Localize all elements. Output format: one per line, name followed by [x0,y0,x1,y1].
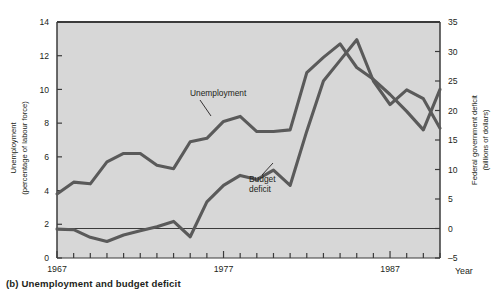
right-tick-label: 10 [448,165,458,175]
right-tick-label: 35 [448,17,458,27]
right-tick-label: 25 [448,76,458,86]
left-tick-label: 8 [44,118,49,128]
right-tick-label: 5 [448,194,453,204]
figure-caption: (b) Unemployment and budget deficit [6,278,181,289]
right-axis-title-line1: Federal government deficit [470,94,479,185]
figure-unemployment-budget-deficit: 02468101214 –505101520253035 19671977198… [0,0,503,301]
left-tick-label: 10 [39,85,49,95]
annotation-budget-deficit-line2: deficit [249,184,272,194]
left-tick-label: 14 [39,17,49,27]
left-tick-label: 6 [44,152,49,162]
left-axis-title-line2: (percentage of labour force) [20,101,29,195]
plot-area-background [57,22,440,258]
right-tick-label: 15 [448,135,458,145]
left-tick-label: 0 [44,253,49,263]
left-axis-title-line1: Unemployment [9,122,18,174]
chart-canvas: 02468101214 –505101520253035 19671977198… [0,0,503,301]
right-tick-label: 20 [448,106,458,116]
x-tick-label: 1967 [47,264,67,274]
right-tick-label: –5 [448,253,458,263]
annotation-budget-deficit-line1: Budget [249,174,276,184]
right-axis-title-line2: (billions of dollars) [481,109,490,171]
x-tick-label: 1987 [380,264,400,274]
left-tick-label: 2 [44,219,49,229]
left-tick-label: 4 [44,186,49,196]
x-axis-title: Year [455,266,473,276]
right-tick-label: 0 [448,224,453,234]
right-tick-label: 30 [448,47,458,57]
left-tick-label: 12 [39,51,49,61]
x-tick-label: 1977 [214,264,234,274]
annotation-unemployment: Unemployment [190,88,247,98]
